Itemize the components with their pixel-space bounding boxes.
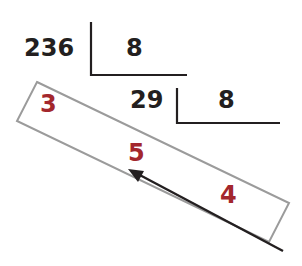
arrow-line	[136, 173, 283, 251]
highlight-digit-4: 4	[220, 181, 237, 209]
highlight-digit-3: 3	[40, 90, 57, 118]
divisor-2: 8	[218, 86, 235, 114]
dividend-1: 236	[24, 34, 74, 62]
division-diagram: 236 8 29 8 3 5 4	[0, 0, 302, 266]
highlight-digit-5: 5	[128, 139, 145, 167]
diagram-svg: 236 8 29 8 3 5 4	[0, 0, 302, 266]
dividend-2: 29	[130, 86, 163, 114]
divisor-1: 8	[126, 34, 143, 62]
